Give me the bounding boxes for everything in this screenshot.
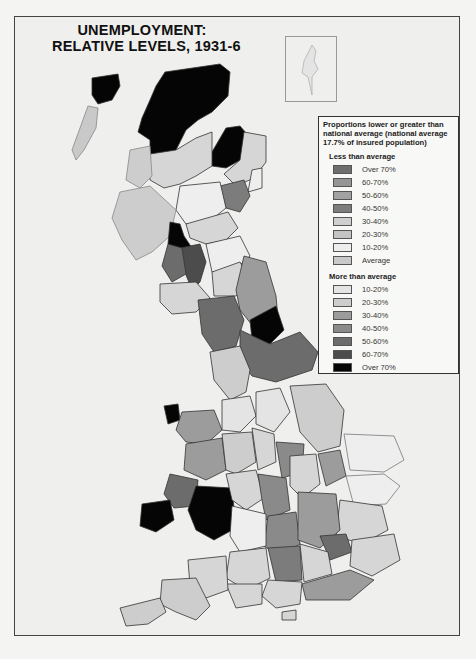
legend-label: Average [362,256,390,265]
legend-swatch [333,243,352,252]
legend-row: 60-70% [333,176,454,189]
legend-group-more: More than average [329,272,454,281]
region-staffs [252,428,276,470]
legend-row: Over 70% [333,163,454,176]
legend-row: 40-50% [333,202,454,215]
legend-label: 40-50% [362,324,388,333]
legend-label: Over 70% [362,363,396,372]
legend-swatch [333,191,352,200]
legend-swatch [333,311,352,320]
legend-row: 10-20% [333,241,454,254]
legend-row: Average [333,254,454,267]
region-gloucester [230,506,266,552]
legend-row: 40-50% [333,322,454,335]
legend-swatch [333,324,352,333]
legend-label: 60-70% [362,178,388,187]
legend-swatch [333,178,352,187]
region-hampshire [262,580,302,608]
region-berks [268,546,302,582]
legend-label: 10-20% [362,243,388,252]
legend-row: 10-20% [333,283,454,296]
region-cambs [318,450,346,486]
legend-swatch [333,298,352,307]
legend-label: 10-20% [362,285,388,294]
legend-row: 30-40% [333,309,454,322]
legend-row: 20-30% [333,296,454,309]
region-highlands-north [138,64,230,156]
legend-row: 50-60% [333,335,454,348]
legend-swatch [333,256,352,265]
legend-heading: Proportions lower or greater than nation… [323,120,454,147]
region-lincoln [290,384,344,452]
legend-label: 50-60% [362,337,388,346]
region-montgomery [184,438,226,480]
legend-row: 50-60% [333,189,454,202]
legend-row: 30-40% [333,215,454,228]
legend-label: 30-40% [362,217,388,226]
title-line-2: RELATIVE LEVELS, 1931-6 [52,38,232,54]
region-derby [256,388,290,432]
legend: Proportions lower or greater than nation… [318,116,459,374]
region-skye [126,146,152,188]
map-title: UNEMPLOYMENT: RELATIVE LEVELS, 1931-6 [52,22,232,54]
region-norfolk [344,434,404,472]
region-dorset [226,584,262,608]
legend-swatch [333,165,352,174]
region-northants [290,454,320,498]
legend-swatch [333,285,352,294]
region-glamorgan [188,486,236,540]
legend-label: 30-40% [362,311,388,320]
region-lewis [92,74,120,104]
region-isle-of-wight [282,610,296,620]
region-anglesey [164,404,180,424]
legend-group-less: Less than average [329,152,454,161]
legend-label: 20-30% [362,230,388,239]
region-cornwall [120,598,166,626]
shetland-islands-shape [286,37,338,103]
legend-label: Over 70% [362,165,396,174]
legend-row: Over 70% [333,361,454,374]
legend-swatch [333,230,352,239]
shetland-inset [285,36,337,102]
region-cumberland [198,296,244,352]
legend-label: 50-60% [362,191,388,200]
legend-row: 20-30% [333,228,454,241]
legend-swatch [333,337,352,346]
legend-label: 60-70% [362,350,388,359]
legend-swatch [333,363,352,372]
region-pembroke [140,500,174,532]
region-outer-hebrides [72,106,98,160]
region-ayr [162,244,186,282]
region-shropshire [222,432,256,474]
region-kent [350,534,400,576]
legend-label: 40-50% [362,204,388,213]
legend-swatch [333,350,352,359]
legend-row: 60-70% [333,348,454,361]
region-cheshire [222,396,256,432]
legend-label: 20-30% [362,298,388,307]
legend-swatch [333,204,352,213]
region-suffolk [346,474,400,506]
legend-swatch [333,217,352,226]
region-yorkshire [240,330,318,382]
title-line-1: UNEMPLOYMENT: [52,22,232,38]
